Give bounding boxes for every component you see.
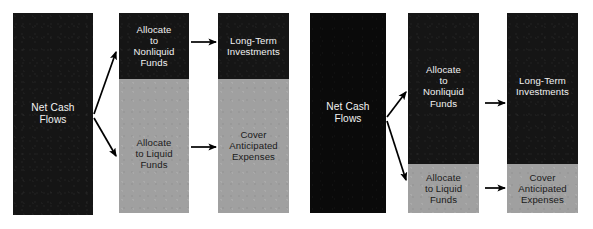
- right-cover-expenses-block: Cover Anticipated Expenses: [507, 164, 578, 213]
- left-allocate-liquid-block: Allocate to Liquid Funds: [119, 79, 189, 213]
- left-diagram: Net Cash Flows Allocate to Nonliquid Fun…: [0, 0, 296, 229]
- left-net-cash-flows-label: Net Cash Flows: [29, 102, 76, 126]
- left-use-column: Long-Term Investments Cover Anticipated …: [218, 13, 289, 213]
- right-net-cash-flows-block: Net Cash Flows: [310, 13, 386, 213]
- right-diagram: Net Cash Flows Allocate to Nonliquid Fun…: [296, 0, 593, 229]
- left-source-column: Net Cash Flows: [13, 13, 93, 215]
- left-allocate-liquid-label: Allocate to Liquid Funds: [119, 137, 189, 171]
- right-allocate-nonliquid-label: Allocate to Nonliquid Funds: [408, 64, 479, 109]
- left-cover-expenses-block: Cover Anticipated Expenses: [218, 79, 289, 213]
- left-allocate-nonliquid-label: Allocate to Nonliquid Funds: [132, 24, 177, 69]
- left-long-term-investments-block: Long-Term Investments: [218, 13, 289, 79]
- right-allocate-liquid-block: Allocate to Liquid Funds: [408, 164, 479, 213]
- right-cover-expenses-label: Cover Anticipated Expenses: [516, 172, 569, 206]
- figure-canvas: Net Cash Flows Allocate to Nonliquid Fun…: [0, 0, 593, 229]
- left-allocation-column: Allocate to Nonliquid Funds Allocate to …: [119, 13, 189, 213]
- right-long-term-investments-label: Long-Term Investments: [507, 75, 578, 97]
- right-long-term-investments-block: Long-Term Investments: [507, 13, 578, 164]
- right-use-column: Long-Term Investments Cover Anticipated …: [507, 13, 578, 213]
- left-long-term-investments-label: Long-Term Investments: [225, 35, 282, 57]
- right-allocate-liquid-label: Allocate to Liquid Funds: [423, 172, 464, 206]
- right-allocation-column: Allocate to Nonliquid Funds Allocate to …: [408, 13, 479, 213]
- right-allocate-nonliquid-block: Allocate to Nonliquid Funds: [408, 13, 479, 164]
- left-net-cash-flows-block: Net Cash Flows: [13, 13, 93, 215]
- left-cover-expenses-label: Cover Anticipated Expenses: [218, 129, 289, 163]
- right-net-cash-flows-label: Net Cash Flows: [324, 101, 371, 125]
- left-allocate-nonliquid-block: Allocate to Nonliquid Funds: [119, 13, 189, 79]
- right-source-column: Net Cash Flows: [310, 13, 386, 213]
